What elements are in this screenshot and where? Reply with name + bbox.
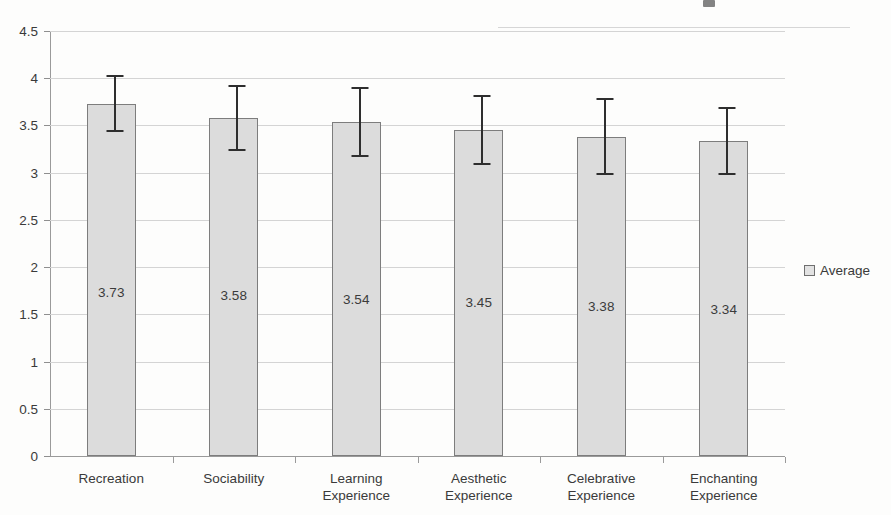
x-axis-tick bbox=[663, 457, 664, 463]
category-label-line1: Recreation bbox=[79, 471, 144, 486]
y-axis-tick-label: 0.5 bbox=[19, 401, 38, 416]
gridline bbox=[50, 220, 785, 221]
gridline bbox=[50, 31, 785, 32]
scan-artifact-mark bbox=[703, 0, 715, 7]
x-axis-tick bbox=[295, 457, 296, 463]
error-bar-cap-top bbox=[596, 98, 613, 100]
y-axis-tick-label: 4.5 bbox=[19, 24, 38, 39]
bar bbox=[577, 137, 626, 456]
y-axis-labels: 00.511.522.533.544.5 bbox=[0, 0, 38, 515]
category-label-line1: Sociability bbox=[203, 471, 264, 486]
error-bar-cap-top bbox=[719, 107, 736, 109]
error-bar-stem bbox=[481, 95, 483, 165]
x-axis-tick bbox=[540, 457, 541, 463]
error-bar-cap-top bbox=[474, 95, 491, 97]
error-bar-cap-top bbox=[351, 87, 368, 89]
bar-value-label: 3.34 bbox=[711, 302, 737, 317]
x-axis-category-label: Sociability bbox=[203, 470, 264, 487]
category-label-line2: Experience bbox=[690, 487, 758, 504]
error-bar bbox=[717, 107, 737, 175]
gridline bbox=[50, 409, 785, 410]
error-bar-stem bbox=[236, 85, 238, 151]
bar-value-label: 3.38 bbox=[588, 299, 614, 314]
gridline bbox=[50, 362, 785, 363]
chart-legend: Average bbox=[804, 263, 870, 278]
bar-chart: 00.511.522.533.544.5 3.733.583.543.453.3… bbox=[0, 0, 891, 515]
y-axis-tick-label: 4 bbox=[30, 71, 38, 86]
error-bar-cap-bottom bbox=[351, 155, 368, 157]
bar bbox=[454, 130, 503, 456]
error-bar bbox=[350, 87, 370, 157]
error-bar-cap-bottom bbox=[474, 163, 491, 165]
x-axis-tick bbox=[785, 457, 786, 463]
error-bar-cap-bottom bbox=[719, 173, 736, 175]
category-label-line1: Enchanting bbox=[690, 471, 758, 486]
bar bbox=[332, 122, 381, 456]
bar bbox=[699, 141, 748, 456]
error-bar-stem bbox=[604, 98, 606, 175]
y-axis-tick-label: 3 bbox=[30, 165, 38, 180]
scan-artifact-line bbox=[498, 27, 850, 28]
gridline bbox=[50, 173, 785, 174]
x-axis-tick bbox=[418, 457, 419, 463]
y-axis-tick-label: 3.5 bbox=[19, 118, 38, 133]
error-bar-stem bbox=[114, 75, 116, 132]
gridline bbox=[50, 125, 785, 126]
gridline bbox=[50, 456, 785, 457]
error-bar bbox=[227, 85, 247, 151]
legend-item-average: Average bbox=[820, 263, 870, 278]
x-axis-category-label: AestheticExperience bbox=[445, 470, 513, 504]
bar-value-label: 3.58 bbox=[221, 288, 247, 303]
y-axis-tick-label: 0 bbox=[30, 449, 38, 464]
bar-value-label: 3.54 bbox=[343, 292, 369, 307]
category-label-line2: Experience bbox=[567, 487, 635, 504]
bar-value-label: 3.45 bbox=[466, 295, 492, 310]
x-axis-category-label: LearningExperience bbox=[322, 470, 390, 504]
error-bar bbox=[472, 95, 492, 165]
plot-area bbox=[50, 31, 785, 456]
error-bar-stem bbox=[359, 87, 361, 157]
error-bar-cap-top bbox=[106, 75, 123, 77]
error-bar bbox=[595, 98, 615, 175]
bar bbox=[87, 104, 136, 456]
y-axis-tick-label: 1.5 bbox=[19, 307, 38, 322]
category-label-line1: Learning bbox=[330, 471, 383, 486]
category-label-line2: Experience bbox=[445, 487, 513, 504]
error-bar-stem bbox=[726, 107, 728, 175]
y-axis-tick-label: 2.5 bbox=[19, 212, 38, 227]
gridline bbox=[50, 314, 785, 315]
x-axis-category-label: Recreation bbox=[79, 470, 144, 487]
y-axis-tick-label: 1 bbox=[30, 354, 38, 369]
error-bar-cap-bottom bbox=[106, 130, 123, 132]
error-bar-cap-top bbox=[229, 85, 246, 87]
x-axis-category-label: EnchantingExperience bbox=[690, 470, 758, 504]
bar-value-label: 3.73 bbox=[98, 285, 124, 300]
gridline bbox=[50, 78, 785, 79]
y-axis-tick-label: 2 bbox=[30, 260, 38, 275]
error-bar-cap-bottom bbox=[229, 149, 246, 151]
category-label-line1: Aesthetic bbox=[451, 471, 507, 486]
error-bar-cap-bottom bbox=[596, 173, 613, 175]
category-label-line1: Celebrative bbox=[567, 471, 635, 486]
gridline bbox=[50, 267, 785, 268]
bar bbox=[209, 118, 258, 456]
category-label-line2: Experience bbox=[322, 487, 390, 504]
legend-swatch-icon bbox=[804, 265, 815, 276]
error-bar bbox=[105, 75, 125, 132]
x-axis-tick bbox=[173, 457, 174, 463]
x-axis-category-label: CelebrativeExperience bbox=[567, 470, 635, 504]
